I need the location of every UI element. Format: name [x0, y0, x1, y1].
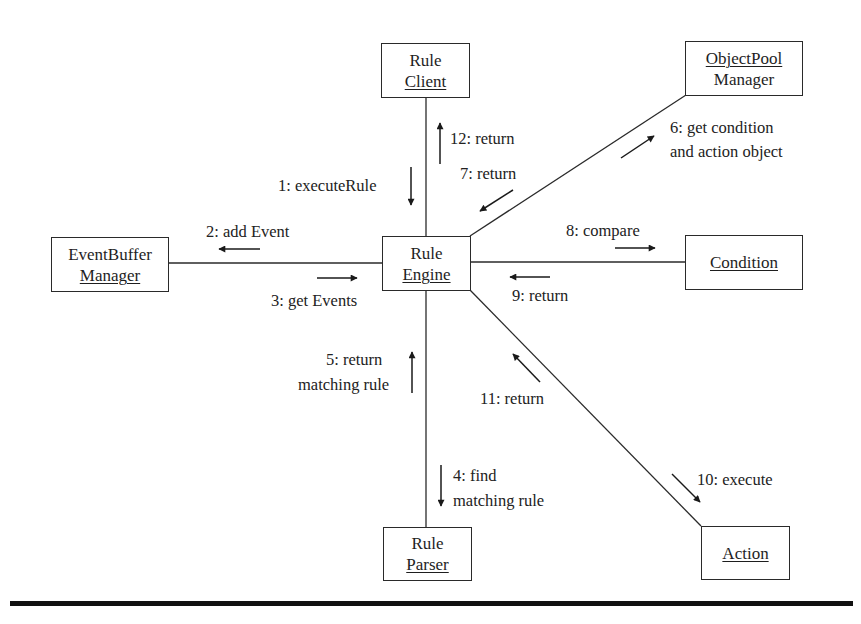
message-6-label-line1: 6: get condition [670, 117, 774, 138]
arrow-10-execute [672, 474, 700, 502]
message-3-label: 3: get Events [271, 290, 357, 311]
object-label: Rule [409, 50, 441, 71]
object-condition: Condition [685, 235, 803, 290]
object-label: Rule [411, 533, 443, 554]
message-1-label: 1: executeRule [278, 175, 377, 196]
object-label: Manager [714, 69, 774, 90]
bottom-divider [10, 601, 853, 606]
message-2-label: 2: add Event [206, 221, 289, 242]
message-5-label-line2: matching rule [298, 374, 389, 395]
message-4-label-line1: 4: find [453, 465, 497, 486]
message-12-label: 12: return [450, 128, 515, 149]
object-label: Parser [406, 554, 448, 575]
message-11-label: 11: return [480, 388, 544, 409]
object-rule-engine: Rule Engine [382, 236, 471, 291]
object-label: ObjectPool [706, 48, 783, 69]
object-eventbuffer-manager: EventBuffer Manager [51, 237, 169, 292]
object-label: Manager [80, 265, 140, 286]
object-action: Action [701, 526, 790, 580]
message-8-label: 8: compare [566, 220, 640, 241]
arrow-6-get-condition [621, 136, 654, 158]
object-label: Action [722, 543, 768, 564]
message-7-label: 7: return [460, 163, 516, 184]
object-label: Engine [402, 264, 450, 285]
object-label: Rule [410, 243, 442, 264]
object-rule-client: Rule Client [381, 43, 470, 98]
message-4-label-line2: matching rule [453, 490, 544, 511]
message-10-label: 10: execute [697, 469, 773, 490]
object-label: EventBuffer [68, 244, 152, 265]
message-5-label-line1: 5: return [326, 349, 382, 370]
arrow-7-return [480, 190, 513, 211]
object-label: Condition [710, 252, 778, 273]
object-objectpool-manager: ObjectPool Manager [685, 41, 803, 96]
message-6-label-line2: and action object [670, 141, 783, 162]
message-9-label: 9: return [512, 285, 568, 306]
object-rule-parser: Rule Parser [383, 527, 472, 581]
object-label: Client [405, 71, 447, 92]
